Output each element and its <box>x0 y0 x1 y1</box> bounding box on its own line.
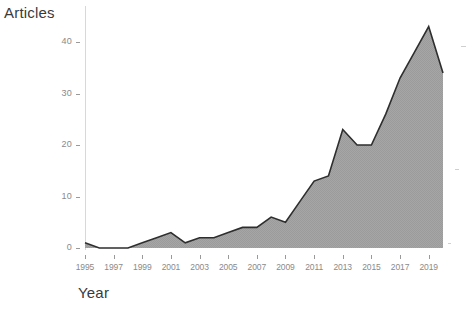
artifact-speck-low <box>448 243 451 244</box>
artifact-speck-mid <box>455 169 459 170</box>
artifact-speck-right <box>461 46 466 47</box>
area-fill-path <box>85 27 443 248</box>
area-series-plot <box>0 0 467 312</box>
chart-container: Articles Year 010203040 1995199719992001… <box>0 0 467 312</box>
